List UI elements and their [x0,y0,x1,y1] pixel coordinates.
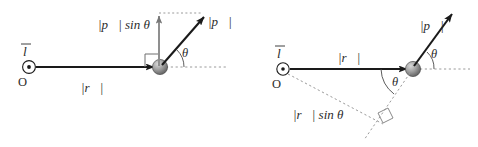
theta-label-upper-right: θ [431,47,437,61]
origin-label-right: O [272,77,281,91]
diagram-canvas: l O |r⃗| |p⃗| sin θ |p⃗| θ [0,0,478,147]
l-axis-label-right: l [277,46,281,61]
left-diagram-group: l O |r⃗| |p⃗| sin θ |p⃗| θ [18,13,232,95]
p-sin-theta-label: |p⃗| sin θ [98,17,150,32]
theta-label: θ [182,46,188,60]
physics-figure: l O |r⃗| |p⃗| sin θ |p⃗| θ [0,0,478,147]
p-magnitude-label-right: |p⃗| [420,18,444,33]
right-diagram-group: l O |r⃗| |p⃗| |r⃗| sin θ θ θ [272,14,470,140]
r-magnitude-label-right: |r⃗| [338,50,360,65]
origin-label: O [18,75,27,89]
origin-dot-out-of-page-icon-right [277,63,289,75]
p-line-extension-dotted [364,73,410,140]
r-sin-theta-label: |r⃗| sin θ [293,107,344,122]
p-magnitude-label: |p⃗| [208,14,232,29]
particle-sphere-right [405,61,420,76]
r-magnitude-label: |r⃗| [81,80,103,95]
origin-dot-out-of-page-icon [23,61,36,74]
theta-label-lower-right: θ [392,75,398,89]
l-axis-label: l [23,44,27,59]
right-angle-marker-icon-right [378,108,393,123]
